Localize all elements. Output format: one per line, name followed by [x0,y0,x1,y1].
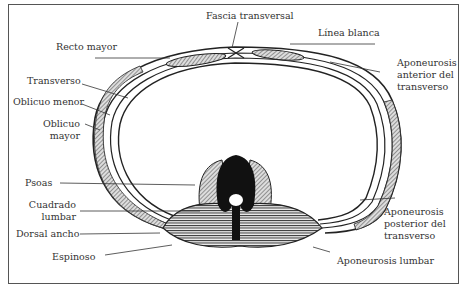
label-line: anterior del [397,69,457,81]
erector-spinae-muscles [163,203,322,247]
label-oblicuo-mayor: Oblicuo mayor [40,118,80,142]
label-dorsal-ancho: Dorsal ancho [16,228,79,240]
label-espinoso: Espinoso [52,251,95,263]
label-recto-mayor: Recto mayor [56,41,117,53]
label-aponeurosis-posterior: Aponeurosis posterior del transverso [384,206,446,242]
label-aponeurosis-anterior: Aponeurosis anterior del transverso [397,57,457,93]
label-transverso: Transverso [27,75,81,87]
label-psoas: Psoas [25,177,52,189]
label-aponeurosis-lumbar: Aponeurosis lumbar [337,255,434,267]
label-line: mayor [40,130,80,142]
label-fascia-transversal: Fascia transversal [206,10,294,22]
label-line: transverso [397,81,457,93]
left-rectus-muscle [166,51,227,69]
label-line: Aponeurosis [397,57,457,69]
spinal-canal [229,194,243,206]
label-linea-blanca: Línea blanca [318,27,380,39]
label-line: transverso [384,230,446,242]
label-line: Aponeurosis [384,206,446,218]
label-line: Oblicuo [40,118,80,130]
label-line: lumbar [20,211,76,223]
label-oblicuo-menor: Oblicuo menor [13,96,84,108]
label-line: posterior del [384,218,446,230]
label-line: Cuadrado [20,199,76,211]
label-cuadrado-lumbar: Cuadrado lumbar [20,199,76,223]
